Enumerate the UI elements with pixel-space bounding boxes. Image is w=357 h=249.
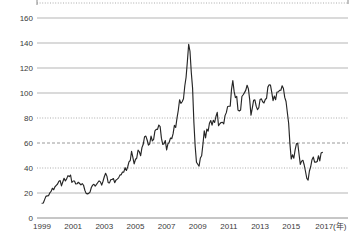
y-axis-label-120: 120 <box>20 64 34 73</box>
y-axis-label-80: 80 <box>24 114 33 123</box>
x-axis-label-2017: 2017(年) <box>315 221 346 231</box>
x-axis-label-2015: 2015 <box>282 222 300 231</box>
x-axis-label-2013: 2013 <box>251 222 269 231</box>
oil-price-line-chart: 0204060801001201401601999200120032005200… <box>0 0 357 249</box>
y-axis-label-160: 160 <box>20 14 34 23</box>
x-axis-label-2003: 2003 <box>95 222 113 231</box>
y-axis-label-40: 40 <box>24 164 33 173</box>
x-axis-label-2011: 2011 <box>220 222 238 231</box>
x-axis-label-2007: 2007 <box>158 222 176 231</box>
y-axis-label-140: 140 <box>20 39 34 48</box>
x-axis-label-2009: 2009 <box>189 222 207 231</box>
y-axis-label-20: 20 <box>24 189 33 198</box>
x-axis-label-2001: 2001 <box>64 222 82 231</box>
y-axis-label-60: 60 <box>24 139 33 148</box>
x-axis-label-1999: 1999 <box>33 222 51 231</box>
x-axis-label-2005: 2005 <box>127 222 145 231</box>
y-axis-label-100: 100 <box>20 89 34 98</box>
chart-canvas: 0204060801001201401601999200120032005200… <box>0 0 357 249</box>
